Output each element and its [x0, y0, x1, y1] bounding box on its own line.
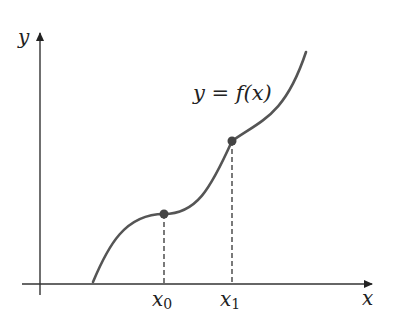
point-x0	[160, 210, 169, 219]
y-axis-label: y	[17, 25, 30, 49]
x0-label: x0	[152, 287, 172, 312]
function-graph: y x y = f(x) x0 x1	[0, 0, 404, 321]
point-x1	[228, 137, 237, 146]
x1-label: x1	[220, 287, 240, 312]
curve-label: y = f(x)	[192, 81, 272, 105]
x-axis-label: x	[362, 286, 373, 310]
